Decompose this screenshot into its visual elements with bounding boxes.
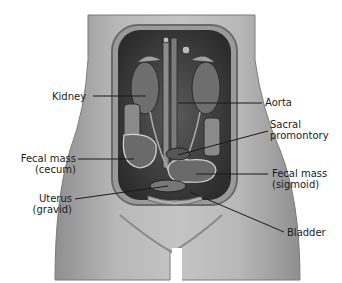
label-bladder: Bladder xyxy=(287,227,326,238)
descending-colon xyxy=(204,118,220,156)
label-aorta: Aorta xyxy=(265,97,292,108)
label-sacral-promontory: Sacralpromontory xyxy=(270,119,329,141)
sacral-promontory xyxy=(166,148,190,160)
label-fecal-mass-cecum: Fecal mass(cecum) xyxy=(10,153,76,175)
label-uterus-gravid: Uterus(gravid) xyxy=(20,193,72,215)
right-kidney xyxy=(192,62,220,114)
sigmoid-colon xyxy=(168,160,216,183)
aorta xyxy=(163,38,169,168)
anatomy-illustration xyxy=(0,0,342,283)
label-kidney: Kidney xyxy=(52,91,86,102)
label-fecal-mass-sigmoid: Fecal mass(sigmoid) xyxy=(272,168,327,190)
